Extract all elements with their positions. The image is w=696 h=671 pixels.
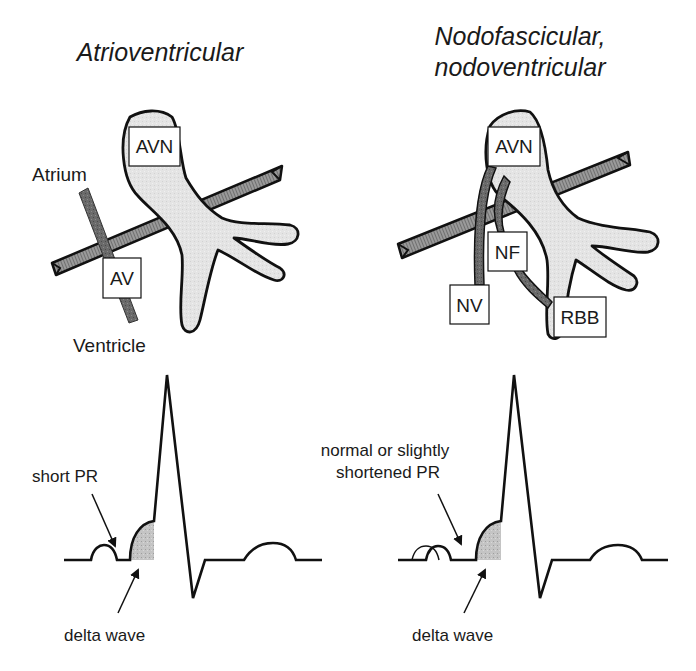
ecg-waveform <box>64 375 322 598</box>
delta-wave-arrow <box>118 570 138 613</box>
nf-label-box: NF <box>488 232 527 271</box>
panel-atrioventricular: Atrioventricular AVN AV Atrium Ventricle… <box>32 38 322 645</box>
pr-label-line-1: normal or slightly <box>321 441 450 460</box>
delta-wave-label: delta wave <box>412 626 493 645</box>
nf-label: NF <box>495 242 520 263</box>
rbb-label: RBB <box>560 307 599 328</box>
panel-title-line-2: nodoventricular <box>435 53 608 81</box>
panel-nodofascicular-nodoventricular: Nodofascicular, nodoventricular AVN NF N… <box>321 22 668 645</box>
avn-label: AVN <box>495 136 533 157</box>
delta-wave-arrow <box>464 570 485 613</box>
wpw-accessory-pathway-diagram: Atrioventricular AVN AV Atrium Ventricle… <box>0 0 696 671</box>
ventricle-label: Ventricle <box>73 335 146 356</box>
nv-label: NV <box>456 295 483 316</box>
short-pr-arrow <box>92 494 115 546</box>
delta-wave-label: delta wave <box>64 626 145 645</box>
rbb-label-box: RBB <box>554 297 606 337</box>
avn-label-box: AVN <box>488 127 540 166</box>
pr-label-line-2: shortened PR <box>336 463 440 482</box>
av-pathway-label-box: AV <box>103 258 141 298</box>
panel-title-line-1: Nodofascicular, <box>435 22 606 50</box>
av-pathway-label: AV <box>110 268 134 289</box>
atrium-label: Atrium <box>32 164 87 185</box>
avn-label: AVN <box>136 136 174 157</box>
nv-label-box: NV <box>450 285 489 324</box>
ecg-waveform <box>398 375 668 598</box>
avn-label-box: AVN <box>129 127 180 166</box>
ecg-trace-left: short PR delta wave <box>32 375 322 645</box>
short-pr-label: short PR <box>32 467 98 486</box>
panel-title: Atrioventricular <box>75 38 245 66</box>
pr-arrow <box>438 494 461 544</box>
ecg-trace-right: normal or slightly shortened PR delta wa… <box>321 375 668 645</box>
